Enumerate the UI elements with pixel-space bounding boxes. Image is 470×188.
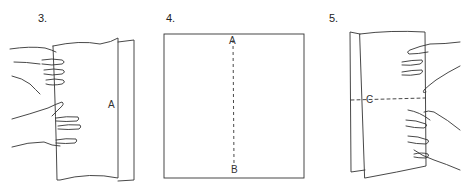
step-4-bottom-label: B <box>231 164 238 175</box>
step-3-fold-label: A <box>108 99 115 110</box>
step-5-illustration: C <box>310 0 470 188</box>
step-3-illustration: A <box>0 0 160 188</box>
step-5-fold-label: C <box>366 94 373 105</box>
step-4-illustration: A B <box>155 0 315 188</box>
step-4-top-label: A <box>229 35 236 46</box>
step-3-panel: 3. A <box>0 0 160 188</box>
step-4-panel: 4. A B <box>155 0 315 188</box>
fold-line <box>233 40 234 164</box>
step-5-panel: 5. C <box>310 0 470 188</box>
